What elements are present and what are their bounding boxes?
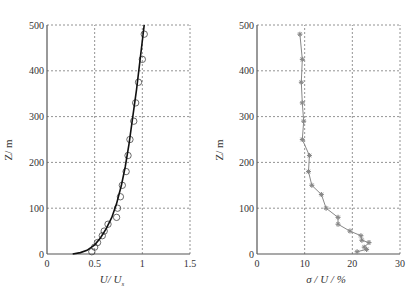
star-marker <box>307 153 312 158</box>
turbulence-line <box>300 34 369 252</box>
star-marker <box>367 240 372 245</box>
star-marker <box>306 169 311 174</box>
y-tick-label: 200 <box>29 157 44 168</box>
y-tick-label: 300 <box>29 111 44 122</box>
data-point-circle <box>113 214 119 220</box>
star-marker <box>358 233 363 238</box>
y-tick-label: 200 <box>239 157 254 168</box>
right-plot-turbulence-profile: 01020300100200300400500 <box>239 20 405 270</box>
star-marker <box>309 183 314 188</box>
x-tick-label: 10 <box>300 258 310 269</box>
star-marker <box>362 245 367 250</box>
y-tick-label: 400 <box>29 65 44 76</box>
left-y-axis-label: Z/ m <box>2 139 14 161</box>
star-marker <box>347 229 352 234</box>
data-point-circle <box>141 31 147 37</box>
y-tick-label: 500 <box>29 20 44 31</box>
star-marker <box>300 57 305 62</box>
y-tick-label: 400 <box>239 65 254 76</box>
y-tick-label: 300 <box>239 111 254 122</box>
x-tick-label: 0 <box>255 258 260 269</box>
y-tick-label: 0 <box>249 249 254 260</box>
star-marker <box>319 192 324 197</box>
chart-figure: 00.511.50100200300400500 010203001002003… <box>0 0 418 298</box>
left-x-axis-label: U/ Us <box>100 273 125 288</box>
star-marker <box>301 119 306 124</box>
left-plot-wind-profile: 00.511.50100200300400500 <box>29 20 196 270</box>
x-tick-label: 1.5 <box>184 258 197 269</box>
star-marker <box>336 215 341 220</box>
right-y-axis-label: Z/ m <box>213 139 225 161</box>
y-tick-label: 0 <box>39 249 44 260</box>
star-marker <box>324 206 329 211</box>
x-tick-label: 30 <box>395 258 405 269</box>
y-tick-label: 100 <box>239 203 254 214</box>
x-tick-label: 1 <box>140 258 145 269</box>
x-tick-label: 0.5 <box>88 258 101 269</box>
star-marker <box>300 100 305 105</box>
data-point-circle <box>135 79 141 85</box>
y-tick-label: 500 <box>239 20 254 31</box>
star-marker <box>355 249 360 254</box>
star-marker <box>297 32 302 37</box>
x-tick-label: 0 <box>45 258 50 269</box>
star-marker <box>359 238 364 243</box>
star-marker <box>336 222 341 227</box>
star-marker <box>299 80 304 85</box>
star-marker <box>300 137 305 142</box>
right-x-axis-label: σ / U / % <box>306 273 346 285</box>
y-tick-label: 100 <box>29 203 44 214</box>
x-tick-label: 20 <box>347 258 357 269</box>
